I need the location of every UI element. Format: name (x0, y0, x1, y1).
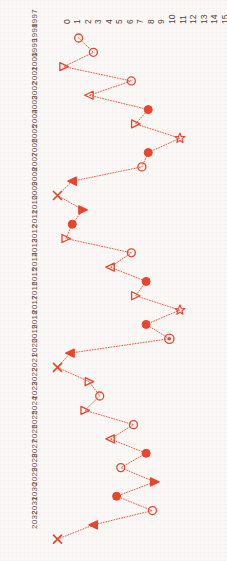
marker-triangle-right-filled (151, 478, 159, 486)
chart-container: 0123456789101112131415 19971998199920002… (0, 0, 227, 561)
marker-triangle-left-open (106, 435, 114, 443)
marker-circle-open (117, 464, 125, 472)
marker-star-open (175, 305, 185, 314)
marker-circle-filled (68, 220, 76, 228)
marker-circle-filled (113, 492, 121, 500)
marker-star-open (175, 133, 185, 142)
series-markers (54, 34, 185, 543)
marker-triangle-left-open (106, 263, 114, 271)
marker-x (54, 363, 62, 371)
marker-triangle-right-open (85, 378, 93, 386)
marker-x (54, 535, 62, 543)
marker-circle-filled (142, 320, 150, 328)
marker-circle-filled (142, 277, 150, 285)
marker-circle-dot-inner (168, 337, 171, 340)
marker-triangle-right-filled (79, 206, 87, 214)
marker-circle-filled (144, 106, 152, 114)
marker-circle-filled (142, 449, 150, 457)
marker-circle-open (89, 48, 97, 56)
marker-triangle-right-open (132, 292, 140, 300)
marker-circle-open (148, 507, 156, 515)
marker-triangle-left-open (85, 91, 93, 99)
plot-area (0, 0, 227, 561)
marker-triangle-left-filled (89, 521, 97, 529)
marker-circle-filled (144, 149, 152, 157)
marker-x (54, 192, 62, 200)
